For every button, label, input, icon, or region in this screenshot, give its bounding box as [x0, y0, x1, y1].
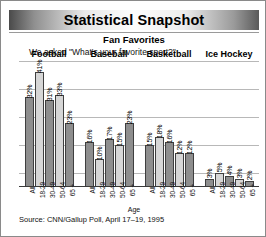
bar[interactable] — [115, 145, 124, 187]
bar-value-label: 3% — [236, 169, 243, 179]
axis-group: All18-2930-4950-6465 + — [19, 188, 79, 218]
title-divider — [9, 32, 259, 33]
bar-value-label: 18% — [156, 125, 163, 138]
bar-group-title: Ice Hockey — [199, 49, 259, 59]
bar-groups: Football32%41%31%33%23%Baseball16%10%17%… — [19, 61, 259, 187]
x-axis-label: Age — [1, 206, 266, 213]
bar-group-baseball: Baseball16%10%17%15%23% — [79, 61, 139, 187]
bar-group-football: Football32%41%31%33%23% — [19, 61, 79, 187]
chart-plot-area: Football32%41%31%33%23%Baseball16%10%17%… — [19, 61, 259, 187]
bar-item[interactable]: 3% — [235, 61, 244, 187]
axis-group: All18-2930-4950-6465 + — [199, 188, 259, 218]
bar-value-label: 31% — [46, 88, 53, 101]
bar-item[interactable]: 17% — [105, 61, 114, 187]
bar-group-title: Football — [19, 49, 79, 59]
bar-item[interactable]: 16% — [85, 61, 94, 187]
page-title: Statistical Snapshot — [9, 10, 259, 30]
bar-item[interactable]: 10% — [95, 61, 104, 187]
bar-value-label: 41% — [36, 60, 43, 73]
bar-value-label: 15% — [146, 133, 153, 146]
bar-value-label: 33% — [56, 83, 63, 96]
axis-group: All18-2930-4950-6465 + — [139, 188, 199, 218]
bar-value-label: 3% — [206, 169, 213, 179]
bar-value-label: 4% — [226, 166, 233, 176]
bar-value-label: 12% — [176, 141, 183, 154]
bar-value-label: 16% — [166, 130, 173, 143]
bar-item[interactable]: 32% — [25, 61, 34, 187]
bar-group-title: Baseball — [79, 49, 139, 59]
bar-item[interactable]: 18% — [155, 61, 164, 187]
bar-group-title: Basketball — [139, 49, 199, 59]
bar-value-label: 12% — [186, 141, 193, 154]
bar[interactable] — [85, 142, 94, 187]
bar-item[interactable]: 41% — [35, 61, 44, 187]
statistical-snapshot-card: Statistical Snapshot Fan Favorites We as… — [0, 0, 266, 237]
bar-item[interactable]: 4% — [225, 61, 234, 187]
bar[interactable] — [125, 123, 134, 187]
bar-value-label: 2% — [246, 171, 253, 181]
x-axis-tick-labels: All18-2930-4950-6465 +All18-2930-4950-64… — [19, 188, 259, 218]
bar-item[interactable]: 23% — [125, 61, 134, 187]
bar[interactable] — [105, 139, 114, 187]
bar[interactable] — [45, 100, 54, 187]
bar[interactable] — [55, 95, 64, 187]
bar[interactable] — [155, 137, 164, 187]
bar[interactable] — [35, 72, 44, 187]
bar-item[interactable]: 15% — [145, 61, 154, 187]
bar[interactable] — [65, 123, 74, 187]
bar-item[interactable]: 5% — [215, 61, 224, 187]
bar-value-label: 5% — [216, 163, 223, 173]
bar-value-label: 23% — [66, 111, 73, 124]
bar-item[interactable]: 12% — [185, 61, 194, 187]
bar-group-ice-hockey: Ice Hockey3%5%4%3%2% — [199, 61, 259, 187]
bar-item[interactable]: 23% — [65, 61, 74, 187]
bar-item[interactable]: 2% — [245, 61, 254, 187]
bar-item[interactable]: 3% — [205, 61, 214, 187]
title-band: Statistical Snapshot — [9, 10, 259, 30]
bar-group-basketball: Basketball15%18%16%12%12% — [139, 61, 199, 187]
bar[interactable] — [165, 142, 174, 187]
bar-value-label: 23% — [126, 111, 133, 124]
bar[interactable] — [25, 97, 34, 187]
bar-item[interactable]: 31% — [45, 61, 54, 187]
bar-item[interactable]: 12% — [175, 61, 184, 187]
axis-group: All18-2930-4950-6465 + — [79, 188, 139, 218]
bar-item[interactable]: 15% — [115, 61, 124, 187]
bar[interactable] — [145, 145, 154, 187]
source-note: Source: CNN/Gallup Poll, April 17–19, 19… — [19, 215, 164, 224]
bar-item[interactable]: 33% — [55, 61, 64, 187]
chart-subtitle: Fan Favorites — [1, 34, 266, 45]
bar-value-label: 10% — [96, 147, 103, 160]
bar-value-label: 16% — [86, 130, 93, 143]
bar-value-label: 32% — [26, 85, 33, 98]
bar-item[interactable]: 16% — [165, 61, 174, 187]
bar-value-label: 17% — [106, 127, 113, 140]
bar-value-label: 15% — [116, 133, 123, 146]
